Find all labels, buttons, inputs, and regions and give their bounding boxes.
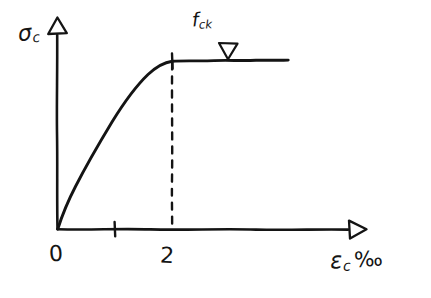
fck-label: fck (191, 9, 212, 31)
x-tick-label-2: 2 (159, 245, 174, 268)
y-axis-arrowhead-icon (48, 18, 67, 35)
y-axis-label: σc (17, 21, 41, 47)
x-tick-1 (115, 222, 116, 236)
fck-triangle-down-icon (219, 43, 238, 59)
x-axis-label: εc‰ (329, 246, 383, 274)
stress-strain-figure: σc fck 0 2 εc‰ (0, 0, 431, 298)
peak-tick-marker (172, 54, 173, 69)
x-axis-line (58, 229, 349, 230)
x-axis-arrowhead-icon (349, 221, 367, 239)
y-axis-label-symbol: σ (16, 20, 33, 47)
x-axis-label-subscript: c (342, 258, 351, 275)
x-tick-label-0: 0 (48, 243, 64, 266)
x-axis-label-unit: ‰ (353, 245, 383, 272)
y-axis-line (57, 35, 58, 229)
fck-label-subscript: ck (199, 17, 213, 32)
